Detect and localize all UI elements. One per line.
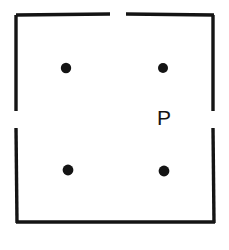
figure-background	[0, 0, 229, 250]
point-labels: P	[157, 106, 171, 129]
square-with-points-figure: P	[0, 0, 229, 250]
diagram-canvas: P	[0, 0, 229, 250]
point-top-right	[158, 63, 168, 73]
point-label-p: P	[157, 106, 171, 129]
point-bottom-right	[159, 166, 170, 177]
point-bottom-left	[63, 165, 74, 176]
border-right-lower-segment	[213, 128, 214, 223]
border-top-right-segment	[126, 14, 214, 15]
border-top-left-segment	[16, 14, 110, 15]
border-left-lower-segment	[16, 128, 17, 223]
point-top-left	[61, 63, 71, 73]
